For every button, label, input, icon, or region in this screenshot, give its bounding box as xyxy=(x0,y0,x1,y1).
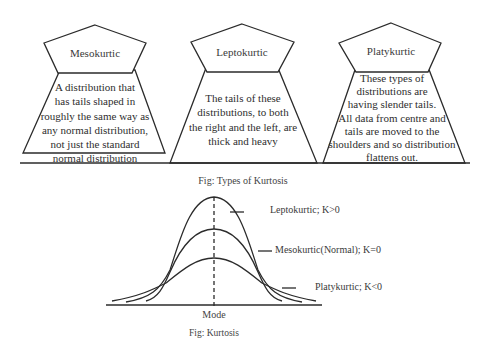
leptokurtic-description: The tails of these distributions, to bot… xyxy=(175,91,311,148)
description-line: All data from centre and xyxy=(322,112,462,125)
platykurtic-title: Platykurtic xyxy=(351,45,431,57)
description-line: not just the standard xyxy=(28,137,162,151)
description-line: shoulders and so distribution xyxy=(322,138,462,151)
platykurtic-curve xyxy=(112,258,316,301)
description-line: having slender tails. xyxy=(322,98,462,111)
description-line: flattens out. xyxy=(322,151,462,164)
description-line: any normal distribution, xyxy=(28,123,162,137)
description-line: These types of xyxy=(322,72,462,85)
description-line: roughly the same way as xyxy=(28,109,162,123)
mesokurtic-title: Mesokurtic xyxy=(55,47,135,59)
mesokurtic-label: Mesokurtic(Normal); K=0 xyxy=(275,244,381,255)
description-line: the right and the left, are xyxy=(175,120,311,134)
platykurtic-label: Platykurtic; K<0 xyxy=(315,281,382,292)
leptokurtic-label: Leptokurtic; K>0 xyxy=(270,204,340,215)
description-line: distributions are xyxy=(322,85,462,98)
mode-label: Mode xyxy=(184,309,244,320)
leptokurtic-title: Leptokurtic xyxy=(202,46,282,58)
description-line: The tails of these xyxy=(175,91,311,105)
description-line: thick and heavy xyxy=(175,134,311,148)
description-line: normal distribution xyxy=(28,151,162,165)
description-line: distributions, to both xyxy=(175,105,311,119)
types-caption: Fig: Types of Kurtosis xyxy=(143,175,343,186)
kurtosis-caption: Fig: Kurtosis xyxy=(174,328,254,338)
platykurtic-description: These types of distributions are having … xyxy=(322,72,462,164)
description-line: tails are moved to the xyxy=(322,125,462,138)
mesokurtic-description: A distribution that has tails shaped in … xyxy=(28,80,162,166)
description-line: A distribution that xyxy=(28,80,162,94)
description-line: has tails shaped in xyxy=(28,94,162,108)
